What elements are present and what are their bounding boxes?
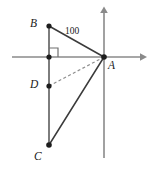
y-axis-arrowhead-icon	[100, 7, 108, 14]
vertex-dot-a	[101, 54, 107, 60]
segment-ca	[49, 57, 104, 145]
x-axis-arrowhead-icon	[140, 53, 147, 61]
vertex-dot-foot	[46, 54, 51, 59]
vertex-dot-c	[46, 142, 52, 148]
point-label-c: C	[34, 151, 42, 163]
vertex-dot-b	[46, 23, 51, 28]
segment-length-label-ba: 100	[65, 27, 79, 37]
segments-group	[49, 26, 104, 145]
point-label-b: B	[30, 18, 37, 30]
vertex-dot-d	[46, 83, 51, 88]
point-label-d: D	[30, 79, 38, 91]
point-label-a: A	[108, 60, 115, 72]
geometry-figure: B A D C 100	[0, 0, 148, 174]
